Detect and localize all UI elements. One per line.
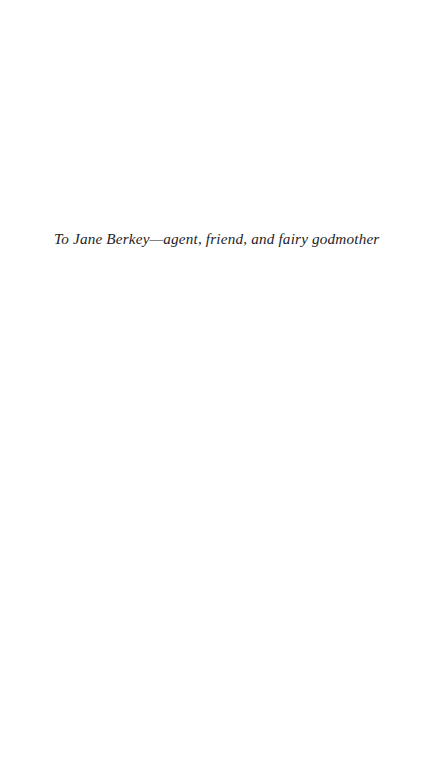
dedication-text-block: To Jane Berkey—agent, friend, and fairy … xyxy=(54,228,388,250)
dedication-line: To Jane Berkey—agent, friend, and fairy … xyxy=(54,228,388,250)
document-page: To Jane Berkey—agent, friend, and fairy … xyxy=(0,0,442,766)
